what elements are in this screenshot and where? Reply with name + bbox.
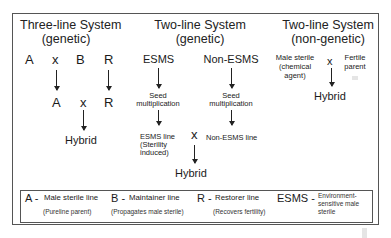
two-line-nongenetic-title: Two-line System [278, 19, 378, 33]
hybrid-result: Hybrid [175, 167, 207, 179]
parent-a: A [25, 53, 34, 67]
non-esms-line-label: Non-ESMS line [206, 134, 257, 142]
arrow-down-icon [331, 68, 332, 86]
arrow-down-icon [158, 110, 159, 125]
legend-label-a: Male sterile line [44, 194, 98, 203]
legend-sub-b: (Propagates male sterile) [111, 208, 184, 215]
esms-line-note-2: induced) [140, 149, 169, 157]
legend-label-esms: Environment- [318, 192, 357, 199]
legend-key-esms: ESMS - [277, 192, 315, 204]
legend-key-a: A - [25, 192, 38, 204]
fertile-parent-label: Fertile [338, 54, 372, 62]
chemical-agent-label: (chemical [272, 63, 318, 71]
parent-b: B [76, 53, 85, 67]
seed-multiplication-right-2: multiplication [208, 100, 254, 108]
arrow-down-icon [83, 110, 84, 130]
two-line-genetic-title: Two-line System [150, 19, 250, 33]
legend-label-esms-2: sensitive male [318, 200, 359, 207]
hybrid-result: Hybrid [314, 90, 346, 102]
two-line-genetic-subtitle: (genetic) [150, 33, 250, 47]
cross-symbol: x [327, 55, 333, 67]
three-line-title: Three-line System [20, 19, 112, 33]
legend-label-r: Restorer line [215, 194, 259, 203]
cross-symbol: x [80, 96, 87, 110]
esms-parent: ESMS [143, 53, 173, 65]
fertile-parent-label-2: parent [338, 63, 372, 71]
seed-multiplication-left-2: multiplication [135, 100, 181, 108]
cross-symbol: x [191, 128, 198, 142]
arrow-down-icon [231, 110, 232, 125]
faint-mark [362, 228, 367, 238]
arrow-down-icon [108, 70, 109, 90]
parent-r: R [104, 53, 113, 67]
legend-label-esms-3: sterile [318, 208, 335, 215]
faint-mark [352, 76, 358, 80]
three-line-subtitle: (genetic) [20, 33, 112, 47]
arrow-down-icon [56, 70, 57, 90]
arrow-down-icon [231, 68, 232, 88]
legend-key-r: R - [197, 192, 212, 204]
non-esms-parent: Non-ESMS [200, 53, 262, 65]
arrow-down-icon [158, 68, 159, 88]
male-sterile-label: Male sterile [272, 54, 318, 62]
legend-key-b: B - [111, 192, 125, 204]
cross-symbol: x [52, 53, 59, 67]
legend-label-b: Maintainer line [129, 194, 180, 203]
line-a: A [52, 96, 61, 110]
line-r: R [104, 96, 113, 110]
hybrid-result: Hybrid [65, 134, 97, 146]
legend-sub-a: (Pureline parent) [43, 208, 91, 215]
arrow-down-icon [194, 145, 195, 163]
chemical-agent-label-2: agent) [272, 72, 318, 80]
legend-sub-r: (Recovers fertility) [213, 208, 265, 215]
two-line-nongenetic-subtitle: (non-genetic) [278, 33, 378, 47]
